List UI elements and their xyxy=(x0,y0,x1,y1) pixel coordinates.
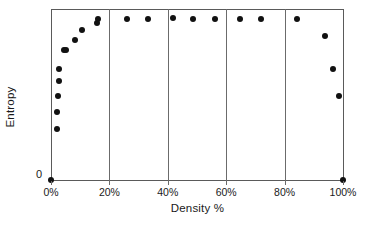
x-axis-tick-mark xyxy=(343,181,344,185)
plot-frame-right xyxy=(343,9,344,181)
x-axis-tick-label: 40% xyxy=(148,186,188,198)
x-axis-tick-label: 20% xyxy=(89,186,129,198)
gridline-80 xyxy=(285,9,286,181)
y-axis-tick-label-zero: 0 xyxy=(28,168,42,180)
x-axis-title: Density % xyxy=(140,202,255,214)
data-point xyxy=(170,15,176,21)
gridline-40 xyxy=(168,9,169,181)
x-axis-tick-mark xyxy=(51,181,52,185)
x-axis-tick-label: 0% xyxy=(31,186,71,198)
data-point xyxy=(212,16,218,22)
data-point xyxy=(258,16,264,22)
data-point xyxy=(56,66,62,72)
x-axis-tick-label: 60% xyxy=(206,186,246,198)
data-point xyxy=(336,93,342,99)
data-point xyxy=(145,16,151,22)
x-axis-tick-mark xyxy=(109,181,110,185)
plot-frame-top xyxy=(51,9,344,10)
data-point xyxy=(322,33,328,39)
data-point xyxy=(95,16,101,22)
data-point xyxy=(56,78,62,84)
data-point xyxy=(237,16,243,22)
data-point xyxy=(190,16,196,22)
x-axis-tick-label: 80% xyxy=(265,186,305,198)
x-axis-tick-mark xyxy=(226,181,227,185)
data-point xyxy=(124,16,130,22)
x-axis-tick-mark xyxy=(168,181,169,185)
plot-area xyxy=(51,9,344,181)
x-axis-tick-mark xyxy=(285,181,286,185)
data-point xyxy=(79,27,85,33)
x-axis-tick-label: 100% xyxy=(323,186,363,198)
entropy-density-scatter-chart: Entropy Density % 0 0%20%40%60%80%100% xyxy=(0,0,372,225)
data-point xyxy=(294,16,300,22)
data-point xyxy=(72,37,78,43)
plot-frame-left xyxy=(51,9,52,181)
data-point xyxy=(55,93,61,99)
plot-frame-bottom xyxy=(51,180,344,181)
data-point xyxy=(330,66,336,72)
y-axis-title: Entropy xyxy=(4,62,20,152)
data-point xyxy=(63,47,69,53)
data-point xyxy=(54,109,60,115)
data-point xyxy=(54,126,60,132)
gridline-20 xyxy=(109,9,110,181)
gridline-60 xyxy=(226,9,227,181)
